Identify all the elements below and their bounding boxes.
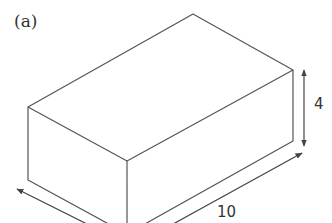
top-face xyxy=(28,14,293,161)
side-face xyxy=(127,70,293,223)
cuboid-drawing xyxy=(0,0,332,223)
cuboid-edges xyxy=(28,14,293,223)
front-face xyxy=(28,107,127,223)
panel-label: (a) xyxy=(14,11,37,31)
length-label: 10 xyxy=(217,203,236,221)
cuboid-diagram: (a) 4 10 xyxy=(0,0,332,223)
height-label: 4 xyxy=(314,95,324,113)
width-arrow xyxy=(17,189,95,223)
